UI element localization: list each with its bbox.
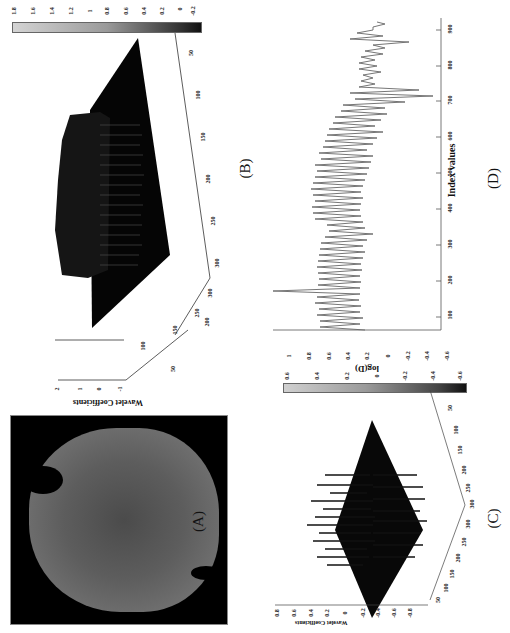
z-tick: -0.2: [360, 608, 366, 618]
x-tick: 50: [188, 50, 194, 56]
y-tick: 100: [443, 584, 449, 593]
y-tick: 0.2: [364, 352, 370, 360]
z-tick: -0.4: [375, 608, 381, 618]
y-tick: 100: [140, 342, 146, 351]
panel-d-ylabel: log(D): [355, 364, 379, 374]
panel-d: 100 200 300 400 500 600 700 800 900 Inde…: [255, 0, 510, 350]
x-tick: 100: [453, 426, 459, 435]
y-tick: 300: [207, 289, 213, 298]
x-tick: 200: [461, 466, 467, 475]
panel-a-label: (A): [190, 511, 207, 532]
z-tick: 0.8: [274, 609, 280, 617]
y-tick: 0.4: [345, 352, 351, 360]
panel-b-y-ticks-lower: 100 150 200: [130, 325, 250, 365]
z-tick: 0.4: [308, 609, 314, 617]
z-tick: -1: [117, 387, 123, 392]
panel-b-label: (B): [237, 159, 254, 179]
y-tick: 200: [455, 554, 461, 563]
z-tick: 0: [96, 388, 102, 391]
x-tick: 200: [447, 276, 453, 285]
x-tick: 200: [205, 175, 211, 184]
panel-d-label: (D): [485, 168, 502, 189]
panel-b: 1.8 1.6 1.4 1.2 1 0.8 0.6 0.4 0.2 0 -0.2…: [0, 0, 255, 340]
y-tick: 0.6: [326, 352, 332, 360]
y-tick: 50: [435, 597, 441, 603]
panel-b-z-axis: 2 1 0 -1 50 Wavelet Coefficients: [30, 380, 140, 420]
x-tick: 600: [447, 132, 453, 141]
panel-a: (A): [10, 415, 230, 625]
x-tick: 250: [210, 217, 216, 226]
x-tick: 700: [447, 96, 453, 105]
y-tick: 0.8: [306, 352, 312, 360]
x-tick: 50: [170, 366, 176, 372]
panel-c: 0.6 0.4 0.2 0 -0.2 -0.4 -0.6 50 100 150 …: [255, 375, 510, 633]
x-tick: 400: [447, 204, 453, 213]
z-tick: -0.6: [391, 608, 397, 618]
y-tick: 150: [172, 326, 178, 335]
y-tick: 300: [465, 520, 471, 529]
y-tick: -0.4: [424, 351, 430, 361]
z-tick: -0.8: [407, 608, 413, 618]
panel-d-xlabel: Index values: [446, 144, 457, 198]
x-tick: 300: [447, 240, 453, 249]
z-tick: 0: [342, 612, 348, 615]
y-tick: 1: [286, 355, 292, 358]
x-tick: 100: [195, 91, 201, 100]
panel-b-z-title: Wavelet Coefficients: [73, 398, 143, 407]
x-tick: 100: [447, 311, 453, 320]
y-tick: 250: [461, 538, 467, 547]
panel-c-z-title: Wavelet Coefficients: [295, 620, 347, 626]
x-tick: 900: [447, 25, 453, 34]
x-tick: 300: [469, 500, 475, 509]
x-tick: 50: [447, 405, 453, 411]
x-tick: 150: [200, 133, 206, 142]
panel-d-line-chart: [255, 0, 510, 350]
x-tick: 300: [214, 259, 220, 268]
z-tick: 0.6: [291, 609, 297, 617]
y-tick: 250: [194, 309, 200, 318]
x-tick: 250: [465, 484, 471, 493]
panel-b-surface: [0, 0, 255, 340]
y-tick: 0: [385, 355, 391, 358]
y-tick: -0.2: [405, 351, 411, 361]
x-tick: 800: [447, 61, 453, 70]
y-tick: -0.6: [444, 351, 450, 361]
x-tick: 150: [457, 446, 463, 455]
y-tick: 200: [204, 318, 210, 327]
z-tick: 0.2: [324, 609, 330, 617]
z-tick: 2: [54, 388, 60, 391]
z-tick: 1: [77, 388, 83, 391]
panel-c-label: (C): [485, 509, 502, 529]
y-tick: 150: [449, 570, 455, 579]
panel-d-y-axis: 1 0.8 0.6 0.4 0.2 0 -0.2 -0.4 -0.6 log(D…: [270, 345, 500, 375]
